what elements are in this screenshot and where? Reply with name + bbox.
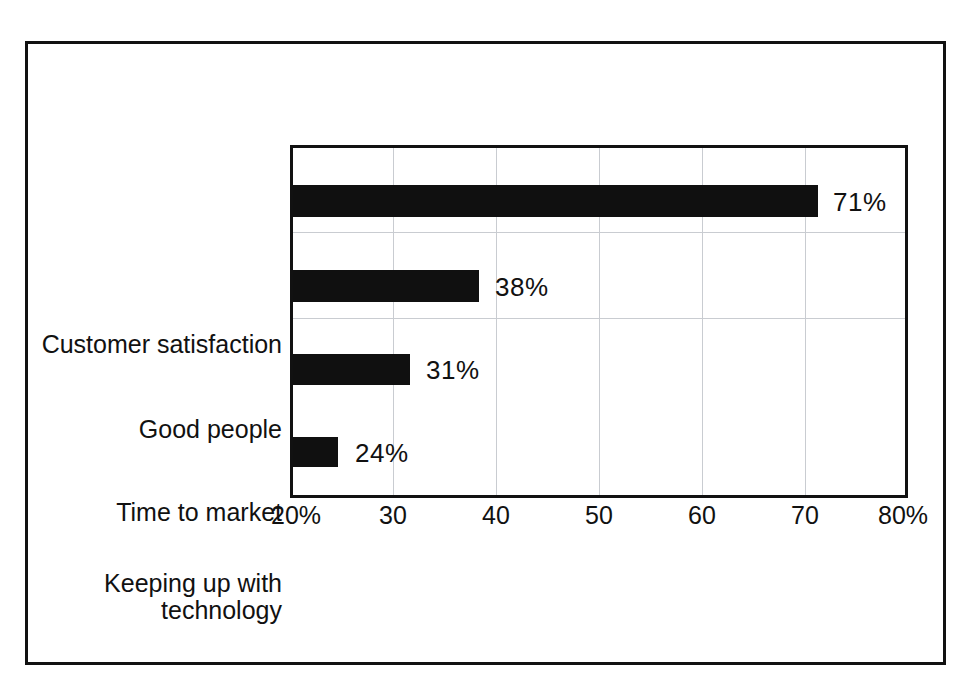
xtick-30: 30 [379, 503, 407, 528]
xtick-50: 50 [585, 503, 613, 528]
xtick-60: 60 [688, 503, 716, 528]
bar-good-people [293, 270, 479, 302]
xtick-40: 40 [482, 503, 510, 528]
xtick-70: 70 [791, 503, 819, 528]
gridline-horizontal-1 [293, 232, 905, 233]
bar-chart: Customer satisfaction Good people Time t… [0, 0, 968, 684]
bar-value-time-to-market: 31% [426, 357, 480, 383]
bar-value-customer-satisfaction: 71% [833, 189, 887, 215]
bar-value-good-people: 38% [495, 274, 549, 300]
bar-keeping-up-with-technology [293, 437, 338, 467]
xtick-20: 20% [271, 503, 321, 528]
x-axis-tick-labels: 20% 30 40 50 60 70 80% [0, 503, 968, 543]
category-label-keeping-up-with-technology: Keeping up with technology [20, 570, 290, 624]
category-label-good-people: Good people [20, 416, 290, 443]
plot-area: 71% 38% 31% 24% [290, 145, 908, 498]
bar-customer-satisfaction [293, 185, 818, 217]
xtick-80: 80% [878, 503, 928, 528]
bar-time-to-market [293, 354, 410, 385]
gridline-horizontal-2 [293, 318, 905, 319]
bar-value-keeping-up-with-technology: 24% [355, 440, 409, 466]
category-axis-labels: Customer satisfaction Good people Time t… [0, 145, 290, 498]
category-label-customer-satisfaction: Customer satisfaction [20, 331, 290, 358]
